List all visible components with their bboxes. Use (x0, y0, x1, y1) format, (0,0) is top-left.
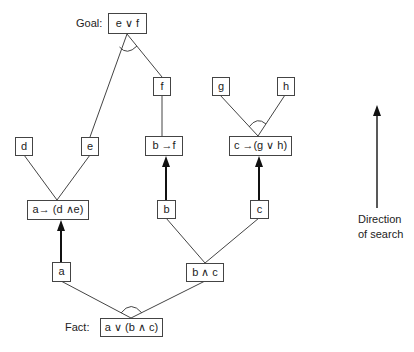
node-b-and-c: b ∧ c (186, 263, 224, 282)
and-arc-rule-gh (249, 121, 266, 127)
node-g: g (212, 77, 230, 96)
edge-bc-b (166, 218, 205, 263)
edge-e-rule (57, 155, 90, 200)
node-b: b (157, 200, 176, 219)
goal-node: e ∨ f (108, 13, 147, 34)
direction-arrowhead-icon (373, 105, 381, 116)
direction-of-search-label: Direction of search (358, 212, 403, 242)
edge-bc-c (205, 218, 259, 263)
goal-label: Goal: (76, 16, 102, 30)
node-c: c (250, 200, 269, 219)
node-c-implies-g-or-h: c →(g ∨ h) (229, 136, 292, 156)
node-h: h (277, 77, 295, 96)
node-a: a (52, 262, 71, 282)
arrowhead-icon (162, 156, 170, 167)
arrowhead-icon (255, 156, 263, 167)
direction-label-line1: Direction (358, 212, 403, 227)
fact-label: Fact: (65, 320, 89, 334)
arrowhead-icon (57, 220, 65, 231)
diagram-canvas (0, 0, 414, 352)
edge-rule-h (258, 95, 285, 136)
direction-label-line2: of search (358, 227, 403, 242)
node-b-implies-f: b →f (145, 136, 183, 156)
edge-goal-f (127, 34, 162, 77)
and-arc-fact (121, 307, 142, 314)
node-f: f (153, 77, 171, 96)
fact-node: a ∨ (b ∧ c) (100, 318, 163, 337)
node-a-implies-d-and-e: a→ (d ∧e) (27, 200, 89, 220)
node-e: e (81, 137, 99, 156)
edge-rule-g (220, 95, 258, 136)
node-d: d (15, 137, 33, 156)
edge-d-rule (24, 155, 57, 200)
edge-fact-a (61, 281, 131, 318)
